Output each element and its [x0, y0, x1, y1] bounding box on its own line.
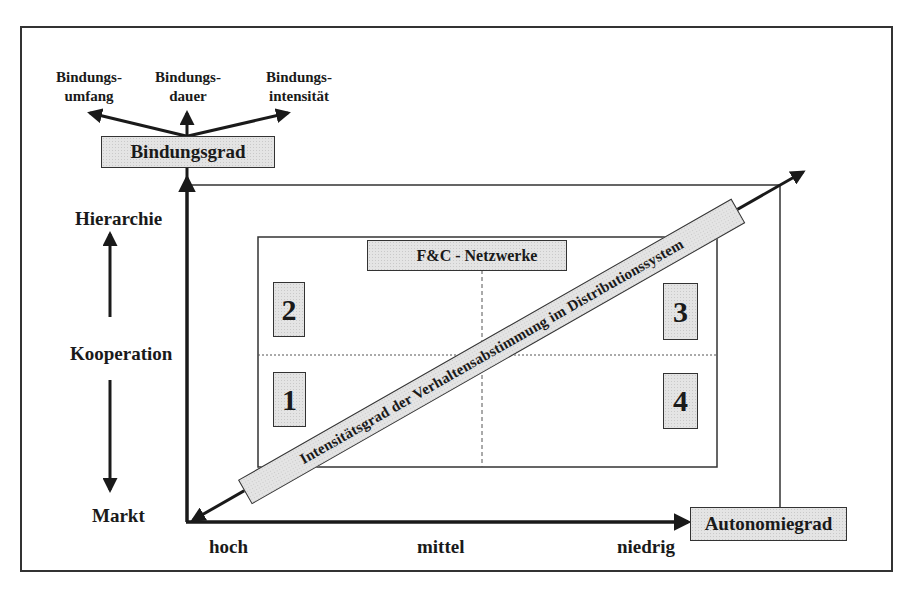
autonomiegrad-label: Autonomiegrad — [705, 513, 833, 535]
outer-frame — [21, 27, 892, 571]
quadrant-box-2: 2 — [273, 282, 305, 337]
fc-netzwerke-box: F&C - Netzwerke — [367, 240, 567, 271]
label-line: dauer — [146, 87, 230, 106]
arrow-intensitaet — [188, 113, 288, 136]
label-markt: Markt — [92, 506, 145, 525]
quadrant-box-1: 1 — [273, 372, 306, 427]
quadrant-box-4: 4 — [663, 373, 698, 429]
label-bindungsintensitaet: Bindungs- intensität — [252, 68, 346, 106]
bindungsgrad-box: Bindungsgrad — [101, 136, 275, 168]
autonomiegrad-box: Autonomiegrad — [690, 507, 847, 541]
label-kooperation: Kooperation — [70, 344, 172, 363]
label-line: Bindungs- — [252, 68, 346, 87]
fc-netzwerke-label: F&C - Netzwerke — [417, 247, 538, 265]
quadrant-box-3: 3 — [663, 283, 698, 340]
label-line: Bindungs- — [44, 68, 134, 87]
diagram-lines — [0, 0, 910, 590]
label-bindungsdauer: Bindungs- dauer — [146, 68, 230, 106]
label-line: umfang — [44, 87, 134, 106]
quadrant-number: 4 — [673, 384, 688, 418]
label-mittel: mittel — [417, 537, 464, 556]
label-hoch: hoch — [209, 537, 248, 556]
label-hierarchie: Hierarchie — [75, 209, 162, 228]
quadrant-number: 3 — [673, 295, 688, 329]
arrow-umfang — [90, 113, 186, 136]
quadrant-number: 2 — [282, 293, 297, 327]
bindungsgrad-label: Bindungsgrad — [130, 141, 245, 163]
label-line: intensität — [252, 87, 346, 106]
label-bindungsumfang: Bindungs- umfang — [44, 68, 134, 106]
quadrant-number: 1 — [282, 383, 297, 417]
label-niedrig: niedrig — [617, 537, 675, 556]
label-line: Bindungs- — [146, 68, 230, 87]
